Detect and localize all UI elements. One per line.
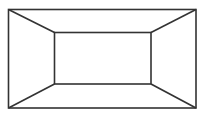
connector-top-right (151, 10, 196, 33)
connector-bottom-right (151, 84, 196, 108)
inner-rectangle (55, 33, 152, 85)
perspective-box-diagram (0, 0, 203, 113)
connector-top-left (9, 10, 55, 33)
connector-bottom-left (9, 84, 55, 108)
